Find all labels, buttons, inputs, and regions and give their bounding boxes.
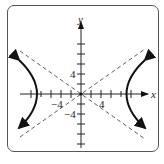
x-axis bbox=[20, 90, 148, 98]
y-axis bbox=[77, 22, 85, 148]
origin-point bbox=[79, 92, 82, 95]
x-axis-label: x bbox=[150, 88, 156, 100]
y-axis-label: y bbox=[77, 13, 83, 25]
hyperbola-graph: x y −4 4 4 −4 bbox=[0, 0, 164, 164]
x-tick-label-pos4: 4 bbox=[99, 98, 105, 110]
y-tick-label-pos4: 4 bbox=[70, 68, 76, 80]
y-tick-label-neg4: −4 bbox=[64, 108, 76, 120]
x-tick-label-neg4: −4 bbox=[51, 98, 63, 110]
